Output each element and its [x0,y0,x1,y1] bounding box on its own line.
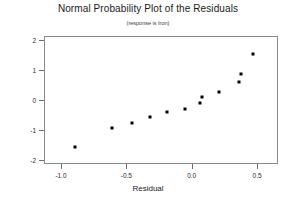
x-tick-mark [192,164,193,169]
plot-area-frame [44,36,278,164]
x-tick-mark [257,164,258,169]
x-tick-label: -1.0 [44,172,78,179]
x-tick-mark [126,164,127,169]
y-tick-label: 2 [14,36,36,43]
y-tick-label: -1 [14,127,36,134]
y-tick-mark [39,130,44,131]
chart-figure: Normal Probability Plot of the Residuals… [0,0,296,205]
x-tick-mark [61,164,62,169]
x-axis-label: Residual [0,184,296,193]
chart-subtitle: (response is Iron) [0,20,296,26]
y-tick-mark [39,160,44,161]
x-tick-label: 0.0 [175,172,209,179]
x-tick-label: -0.5 [109,172,143,179]
x-tick-label: 0.5 [240,172,274,179]
y-tick-mark [39,40,44,41]
chart-title: Normal Probability Plot of the Residuals [0,3,296,14]
y-tick-mark [39,70,44,71]
y-tick-label: -2 [14,157,36,164]
y-tick-label: 1 [14,66,36,73]
y-tick-mark [39,100,44,101]
y-tick-label: 0 [14,97,36,104]
